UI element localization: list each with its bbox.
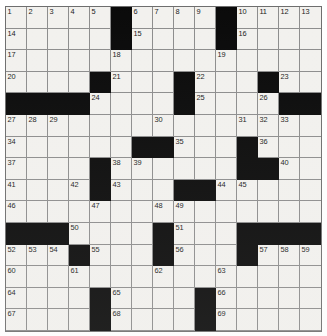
crossword-cell[interactable] (279, 29, 300, 51)
crossword-cell[interactable]: 48 (153, 201, 174, 223)
crossword-cell[interactable]: 25 (195, 93, 216, 115)
crossword-cell[interactable]: 44 (216, 180, 237, 202)
crossword-cell[interactable] (279, 288, 300, 310)
crossword-cell[interactable]: 67 (6, 309, 27, 331)
crossword-cell[interactable] (195, 137, 216, 159)
crossword-cell[interactable] (90, 223, 111, 245)
crossword-cell[interactable] (300, 158, 321, 180)
crossword-cell[interactable] (27, 309, 48, 331)
crossword-cell[interactable] (216, 115, 237, 137)
crossword-cell[interactable] (48, 50, 69, 72)
crossword-cell[interactable]: 34 (6, 137, 27, 159)
crossword-cell[interactable] (90, 266, 111, 288)
crossword-cell[interactable] (300, 137, 321, 159)
crossword-cell[interactable]: 68 (111, 309, 132, 331)
crossword-cell[interactable] (153, 29, 174, 51)
crossword-cell[interactable] (90, 137, 111, 159)
crossword-cell[interactable] (132, 93, 153, 115)
crossword-cell[interactable] (132, 50, 153, 72)
crossword-cell[interactable] (279, 309, 300, 331)
crossword-cell[interactable]: 4 (69, 7, 90, 29)
crossword-cell[interactable]: 41 (6, 180, 27, 202)
crossword-cell[interactable]: 11 (258, 7, 279, 29)
crossword-cell[interactable] (132, 245, 153, 267)
crossword-cell[interactable] (300, 266, 321, 288)
crossword-cell[interactable]: 30 (153, 115, 174, 137)
crossword-cell[interactable]: 63 (216, 266, 237, 288)
crossword-cell[interactable]: 64 (6, 288, 27, 310)
crossword-cell[interactable]: 21 (111, 72, 132, 94)
crossword-cell[interactable] (153, 50, 174, 72)
crossword-cell[interactable]: 62 (153, 266, 174, 288)
crossword-cell[interactable] (300, 288, 321, 310)
crossword-cell[interactable] (258, 266, 279, 288)
crossword-cell[interactable] (300, 309, 321, 331)
crossword-cell[interactable] (195, 50, 216, 72)
crossword-cell[interactable] (69, 309, 90, 331)
crossword-cell[interactable]: 18 (111, 50, 132, 72)
crossword-cell[interactable] (69, 158, 90, 180)
crossword-cell[interactable] (69, 137, 90, 159)
crossword-cell[interactable] (132, 72, 153, 94)
crossword-cell[interactable] (174, 158, 195, 180)
crossword-cell[interactable]: 3 (48, 7, 69, 29)
crossword-cell[interactable]: 33 (279, 115, 300, 137)
crossword-cell[interactable]: 2 (27, 7, 48, 29)
crossword-cell[interactable]: 42 (69, 180, 90, 202)
crossword-cell[interactable] (48, 29, 69, 51)
crossword-cell[interactable] (300, 72, 321, 94)
crossword-cell[interactable] (69, 115, 90, 137)
crossword-cell[interactable]: 32 (258, 115, 279, 137)
crossword-cell[interactable] (216, 93, 237, 115)
crossword-cell[interactable] (90, 50, 111, 72)
crossword-cell[interactable] (237, 309, 258, 331)
crossword-cell[interactable] (48, 309, 69, 331)
crossword-cell[interactable] (69, 288, 90, 310)
crossword-cell[interactable]: 16 (237, 29, 258, 51)
crossword-cell[interactable]: 15 (132, 29, 153, 51)
crossword-cell[interactable] (195, 266, 216, 288)
crossword-cell[interactable]: 66 (216, 288, 237, 310)
crossword-cell[interactable] (174, 309, 195, 331)
crossword-cell[interactable]: 19 (216, 50, 237, 72)
crossword-cell[interactable] (195, 223, 216, 245)
crossword-cell[interactable] (69, 201, 90, 223)
crossword-cell[interactable]: 58 (279, 245, 300, 267)
crossword-cell[interactable] (216, 72, 237, 94)
crossword-cell[interactable] (111, 245, 132, 267)
crossword-cell[interactable]: 54 (48, 245, 69, 267)
crossword-cell[interactable]: 6 (132, 7, 153, 29)
crossword-cell[interactable] (195, 29, 216, 51)
crossword-cell[interactable] (48, 266, 69, 288)
crossword-cell[interactable] (174, 288, 195, 310)
crossword-cell[interactable] (237, 93, 258, 115)
crossword-cell[interactable]: 49 (174, 201, 195, 223)
crossword-cell[interactable] (132, 309, 153, 331)
crossword-cell[interactable] (300, 29, 321, 51)
crossword-cell[interactable]: 1 (6, 7, 27, 29)
crossword-cell[interactable] (258, 201, 279, 223)
crossword-cell[interactable]: 38 (111, 158, 132, 180)
crossword-cell[interactable]: 24 (90, 93, 111, 115)
crossword-cell[interactable] (111, 201, 132, 223)
crossword-cell[interactable]: 12 (279, 7, 300, 29)
crossword-cell[interactable] (153, 93, 174, 115)
crossword-cell[interactable]: 36 (258, 137, 279, 159)
crossword-cell[interactable] (300, 115, 321, 137)
crossword-cell[interactable] (69, 72, 90, 94)
crossword-cell[interactable]: 31 (237, 115, 258, 137)
crossword-cell[interactable] (258, 50, 279, 72)
crossword-cell[interactable] (69, 29, 90, 51)
crossword-cell[interactable]: 59 (300, 245, 321, 267)
crossword-cell[interactable] (153, 158, 174, 180)
crossword-cell[interactable] (153, 309, 174, 331)
crossword-cell[interactable] (300, 180, 321, 202)
crossword-cell[interactable] (279, 180, 300, 202)
crossword-cell[interactable]: 52 (6, 245, 27, 267)
crossword-cell[interactable] (111, 115, 132, 137)
crossword-cell[interactable]: 14 (6, 29, 27, 51)
crossword-cell[interactable]: 51 (174, 223, 195, 245)
crossword-cell[interactable] (258, 309, 279, 331)
crossword-cell[interactable] (90, 29, 111, 51)
crossword-cell[interactable] (195, 115, 216, 137)
